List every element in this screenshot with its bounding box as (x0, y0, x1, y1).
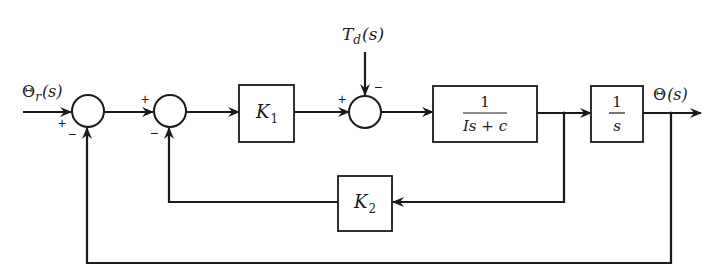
plant-denominator: Is + c (462, 117, 508, 135)
output-signal-label: Θ(s) (653, 85, 688, 104)
sum1-minus-sign: − (68, 126, 76, 142)
block-diagram: Θr(s) + − + − K1 Td(s) + − 1 Is + c 1 s … (0, 0, 722, 279)
sum3-minus-sign: − (374, 79, 382, 95)
sum3-plus-sign: + (338, 91, 346, 107)
disturbance-signal-label: Td(s) (342, 24, 384, 47)
plant-numerator: 1 (480, 93, 490, 111)
branch-point-inner (563, 112, 566, 115)
summing-junction-2 (154, 95, 186, 127)
branch-point-outer (670, 112, 673, 115)
summing-junction-3 (349, 96, 381, 128)
integrator-denominator: s (613, 117, 621, 135)
summing-junction-1 (72, 95, 104, 127)
integrator-numerator: 1 (612, 93, 622, 111)
input-signal-label: Θr(s) (22, 82, 63, 104)
sum2-minus-sign: − (150, 125, 158, 141)
sum1-plus-sign: + (58, 115, 66, 131)
sum2-plus-sign: + (141, 91, 149, 107)
